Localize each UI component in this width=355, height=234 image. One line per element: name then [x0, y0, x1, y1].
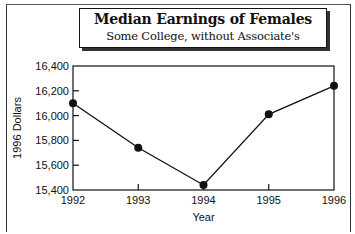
x-axis-label: Year [192, 211, 215, 223]
plot-area [73, 66, 334, 190]
series-line [73, 86, 334, 185]
line-chart: 15,40015,60015,80016,00016,20016,400 199… [0, 0, 355, 234]
y-tick-label: 16,200 [35, 85, 69, 97]
y-axis-label: 1996 Dollars [11, 97, 23, 159]
y-tick-label: 15,600 [35, 159, 69, 171]
data-point [330, 82, 338, 90]
y-tick-label: 15,800 [35, 134, 69, 146]
data-point [134, 144, 142, 152]
series-group [69, 82, 338, 189]
data-point [69, 99, 77, 107]
y-tick-label: 16,400 [35, 60, 69, 72]
x-tick-label: 1992 [61, 194, 85, 206]
x-tick-label: 1995 [257, 194, 281, 206]
data-point [265, 110, 273, 118]
x-tick-label: 1996 [322, 194, 346, 206]
data-point [200, 181, 208, 189]
y-tick-label: 16,000 [35, 110, 69, 122]
x-tick-label: 1993 [126, 194, 150, 206]
x-tick-label: 1994 [191, 194, 215, 206]
